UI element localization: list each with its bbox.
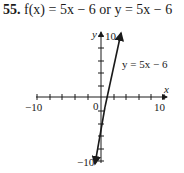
x-axis-label: x bbox=[163, 83, 169, 95]
x-max-label: 10 bbox=[154, 101, 166, 113]
line-label: y = 5x − 6 bbox=[122, 58, 168, 70]
x-min-label: −10 bbox=[25, 101, 43, 113]
origin-label: 0 bbox=[93, 100, 99, 112]
y-max-label: 10 bbox=[105, 30, 117, 42]
y-min-label: −10 bbox=[77, 156, 95, 168]
line-y-5x-minus-6 bbox=[105, 33, 121, 107]
graph: y 10 x −10 0 10 −10 y = 5x − 6 bbox=[0, 0, 184, 173]
y-axis-label: y bbox=[91, 28, 97, 40]
